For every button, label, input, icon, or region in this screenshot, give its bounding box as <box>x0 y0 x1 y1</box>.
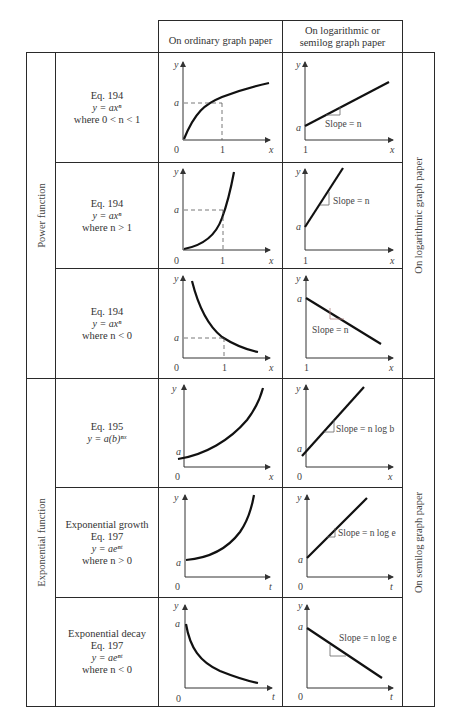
axis-y-label: y <box>171 383 177 394</box>
axis-t-label: t <box>390 691 393 702</box>
origin-label: 0 <box>298 581 303 592</box>
axis-t-label: t <box>269 581 272 592</box>
one-label: 1 <box>220 144 225 155</box>
graph-row5-ordinary: y a 0 t <box>173 492 272 592</box>
axis-x-label: x <box>268 471 274 482</box>
axis-y-label: y <box>173 59 179 70</box>
slope-label: Slope = n log b <box>336 424 394 434</box>
axis-t-label: t <box>272 691 275 702</box>
axis-y-label: y <box>173 600 179 611</box>
graph-row2-log: y a Slope = n 1 x <box>295 166 395 266</box>
a-label: a <box>174 332 179 343</box>
one-label: 1 <box>222 362 227 373</box>
graph-row1-log: y a Slope = n 1 x <box>295 59 395 155</box>
slope-label: Slope = n <box>333 196 370 206</box>
origin-label: 0 <box>174 362 179 373</box>
axis-y-label: y <box>173 492 179 503</box>
a-label: a <box>176 446 181 457</box>
slope-label: Slope = n <box>325 119 362 129</box>
axis-y-label: y <box>173 273 179 284</box>
slope-label: Slope = n <box>312 325 349 335</box>
a-label: a <box>296 221 301 232</box>
origin-label: 0 <box>175 581 180 592</box>
graph-row1-ordinary: y a 0 1 x <box>173 59 274 155</box>
origin-label: 1 <box>303 255 308 266</box>
graph-row6-log: y a Slope = n log e 0 t <box>297 600 397 702</box>
graph-row5-log: y a Slope = n log e 0 t <box>296 492 396 592</box>
a-label: a <box>298 554 303 565</box>
graph-row3-log: y a Slope = n 1 x <box>295 273 394 373</box>
graph-row2-ordinary: y a 0 1 x <box>173 166 274 266</box>
axis-x-label: x <box>387 471 393 482</box>
origin-label: 0 <box>298 691 303 702</box>
axis-y-label: y <box>173 166 179 177</box>
axis-x-label: x <box>268 144 274 155</box>
origin-label: 1 <box>304 362 309 373</box>
axis-x-label: x <box>268 362 274 373</box>
origin-label: 0 <box>174 255 179 266</box>
axis-x-label: x <box>268 255 274 266</box>
a-label: a <box>176 557 181 568</box>
origin-label: 0 <box>176 693 181 704</box>
a-label: a <box>175 618 180 629</box>
axis-y-label: y <box>297 600 303 611</box>
graph-row4-ordinary: y a 0 x <box>171 383 274 482</box>
origin-label: 0 <box>174 144 179 155</box>
slope-label: Slope = n log e <box>339 633 397 643</box>
graph-row4-log: y a Slope = n log b 0 x <box>295 383 394 482</box>
axis-y-label: y <box>296 492 302 503</box>
a-label: a <box>174 97 179 108</box>
a-label: a <box>297 443 302 454</box>
axis-y-label: y <box>295 166 301 177</box>
origin-label: 0 <box>175 471 180 482</box>
origin-label: 0 <box>297 471 302 482</box>
axis-x-label: x <box>388 362 394 373</box>
a-label: a <box>297 293 302 304</box>
one-label: 1 <box>220 255 225 266</box>
axis-t-label: t <box>390 581 393 592</box>
axis-x-label: x <box>389 144 395 155</box>
axis-y-label: y <box>295 383 301 394</box>
axis-y-label: y <box>295 273 301 284</box>
graph-row6-ordinary: y a 0 t <box>173 600 275 704</box>
graph-row3-ordinary: y a 0 1 x <box>173 273 274 373</box>
slope-label: Slope = n log e <box>338 528 396 538</box>
origin-label: 1 <box>303 144 308 155</box>
a-label: a <box>174 204 179 215</box>
graphs-canvas: y a 0 1 x y a Slope = n 1 x y a 0 1 x y … <box>0 0 452 721</box>
axis-y-label: y <box>295 59 301 70</box>
a-label: a <box>298 621 303 632</box>
a-label: a <box>296 122 301 133</box>
axis-x-label: x <box>389 255 395 266</box>
